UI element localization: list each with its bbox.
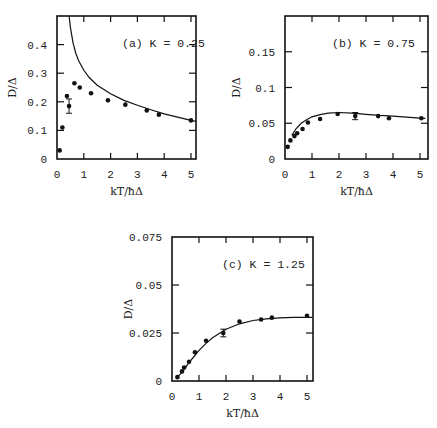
figure-canvas: 01234500.10.20.30.4kT/ħΔD/Δ(a) K = 0.250… [0, 0, 437, 428]
data-point [123, 102, 128, 107]
data-point [106, 98, 111, 103]
x-tick-label: 1 [80, 169, 87, 181]
y-tick-label: 0.025 [129, 328, 162, 340]
panel-c: 01234500.0250.050.075kT/ħΔD/Δ(c) K = 1.2… [122, 232, 313, 420]
panel-label: (c) K = 1.25 [222, 258, 305, 271]
panel-a: 01234500.10.20.30.4kT/ħΔD/Δ(a) K = 0.25 [6, 16, 205, 198]
y-tick-label: 0.4 [27, 40, 47, 52]
x-axis-title: kT/ħΔ [110, 185, 143, 198]
x-axis-title: kT/ħΔ [340, 185, 373, 198]
theory-curve [292, 113, 426, 136]
x-tick-label: 2 [336, 169, 343, 181]
data-point [57, 148, 62, 153]
y-tick-label: 0.15 [249, 47, 275, 59]
theory-curve [69, 16, 196, 122]
x-tick-label: 0 [169, 391, 176, 403]
y-tick-label: 0.1 [27, 125, 47, 137]
x-tick-label: 1 [196, 391, 203, 403]
data-point [72, 81, 77, 86]
data-point [270, 315, 275, 320]
x-tick-label: 1 [309, 169, 316, 181]
y-axis-title: D/Δ [6, 77, 19, 98]
y-tick-label: 0 [268, 154, 275, 166]
data-point [300, 127, 305, 132]
x-tick-label: 5 [188, 169, 195, 181]
x-tick-label: 0 [282, 169, 289, 181]
y-tick-label: 0 [155, 376, 162, 388]
panel-b: 01234500.050.10.15kT/ħΔD/Δ(b) K = 0.75 [230, 16, 428, 198]
x-tick-label: 2 [107, 169, 114, 181]
panel-label: (b) K = 0.75 [332, 37, 415, 50]
x-tick-label: 0 [54, 169, 61, 181]
panel-label: (a) K = 0.25 [122, 37, 205, 50]
x-tick-label: 4 [390, 169, 397, 181]
y-tick-label: 0.075 [129, 232, 162, 244]
y-tick-label: 0.3 [27, 68, 47, 80]
x-tick-label: 3 [134, 169, 141, 181]
data-point [306, 120, 311, 125]
x-tick-label: 3 [363, 169, 370, 181]
data-point [285, 145, 290, 150]
x-tick-label: 5 [417, 169, 424, 181]
x-tick-label: 4 [161, 169, 168, 181]
data-point [376, 114, 381, 119]
y-tick-label: 0.1 [255, 83, 275, 95]
x-axis-title: kT/ħΔ [226, 407, 259, 420]
data-point [89, 91, 94, 96]
data-point [65, 94, 70, 99]
y-axis-title: D/Δ [230, 77, 243, 98]
y-tick-label: 0.05 [136, 280, 162, 292]
y-axis-title: D/Δ [122, 299, 135, 320]
data-point [77, 85, 82, 90]
x-tick-label: 4 [277, 391, 284, 403]
y-tick-label: 0 [40, 154, 47, 166]
x-tick-label: 2 [223, 391, 230, 403]
data-point [288, 138, 293, 143]
data-point [60, 125, 65, 130]
y-tick-label: 0.2 [27, 97, 47, 109]
data-point [295, 131, 300, 136]
y-tick-label: 0.05 [249, 118, 275, 130]
theory-curve [177, 317, 312, 377]
x-tick-label: 5 [304, 391, 311, 403]
x-tick-label: 3 [250, 391, 257, 403]
data-point [318, 117, 323, 122]
